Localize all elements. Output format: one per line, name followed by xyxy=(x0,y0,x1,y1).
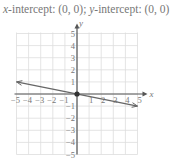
y-tick-label: 2 xyxy=(71,65,75,75)
intercept-point xyxy=(74,91,79,96)
x-tick-label: 3 xyxy=(113,95,117,105)
x-tick-label: −4 xyxy=(23,95,33,105)
y-tick-label: 5 xyxy=(71,29,75,39)
x-axis-arrow-icon xyxy=(143,92,148,97)
x-axis-label: x xyxy=(149,89,154,99)
x-tick-label: −3 xyxy=(35,95,44,105)
x-tick-label: −5 xyxy=(11,95,20,105)
y-tick-label: −4 xyxy=(66,137,76,147)
y-tick-label: −5 xyxy=(66,150,75,160)
y-tick-label: −3 xyxy=(66,125,75,135)
y-tick-label: −2 xyxy=(66,113,75,123)
x-tick-label: 5 xyxy=(137,95,141,105)
coordinate-plane: xy−5−4−3−2−11234554321−1−2−3−4−5 xyxy=(0,0,173,159)
y-axis-label: y xyxy=(78,18,83,28)
x-tick-label: −2 xyxy=(47,95,56,105)
y-tick-label: 1 xyxy=(71,77,75,87)
y-tick-label: 3 xyxy=(71,53,75,63)
y-tick-label: −1 xyxy=(66,101,75,111)
